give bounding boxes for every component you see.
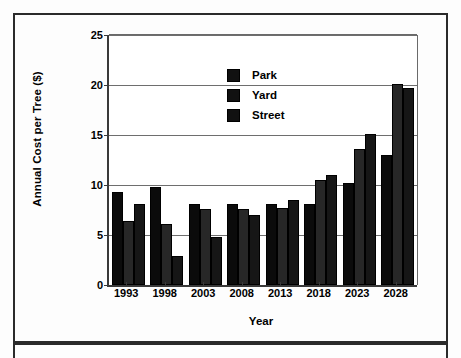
- bar-street: [288, 200, 299, 285]
- x-tick-layer: 19931998200320082013201820232028: [107, 287, 415, 313]
- x-axis-tick-label: 1993: [107, 287, 146, 313]
- bar-yard: [161, 224, 172, 285]
- bar-park: [150, 187, 161, 285]
- legend-swatch-park-icon: [227, 69, 240, 82]
- figure-frame-lower-section: [13, 343, 448, 358]
- bar-street: [211, 237, 222, 285]
- y-axis-tick-mark: [104, 285, 109, 286]
- x-axis-tick-mark: [126, 282, 127, 287]
- x-axis-tick-label: 1998: [146, 287, 185, 313]
- legend-item-yard: Yard: [227, 85, 285, 105]
- plot-area: 0510152025 Park Yard Street: [107, 35, 417, 287]
- x-axis-tick-label: 2003: [184, 287, 223, 313]
- bar-yard: [315, 180, 326, 285]
- bar-street: [249, 215, 260, 285]
- x-axis-tick-label: 2013: [261, 287, 300, 313]
- legend-item-street: Street: [227, 105, 285, 125]
- bar-park: [112, 192, 123, 285]
- legend-label-street: Street: [252, 109, 285, 121]
- bar-yard: [277, 208, 288, 285]
- bar-street: [172, 256, 183, 285]
- x-axis-tick-mark: [396, 282, 397, 287]
- chart-legend: Park Yard Street: [227, 65, 285, 125]
- bar-chart: Annual Cost per Tree ($) 0510152025 Park: [15, 15, 450, 345]
- x-axis-title: Year: [107, 315, 415, 327]
- legend-label-park: Park: [252, 69, 277, 81]
- x-axis-tick-mark: [165, 282, 166, 287]
- y-axis-tick-label: 20: [91, 79, 103, 91]
- bar-park: [266, 204, 277, 285]
- bar-yard: [123, 221, 134, 285]
- y-axis-title: Annual Cost per Tree ($): [31, 29, 43, 249]
- bar-park: [227, 204, 238, 285]
- bar-park: [381, 155, 392, 285]
- bar-group: [379, 35, 418, 285]
- legend-swatch-street-icon: [227, 109, 240, 122]
- x-axis-tick-label: 2023: [338, 287, 377, 313]
- bar-park: [304, 204, 315, 285]
- bar-group: [302, 35, 341, 285]
- bar-yard: [238, 209, 249, 285]
- bar-group: [148, 35, 187, 285]
- bar-yard: [354, 149, 365, 285]
- x-axis-tick-label: 2028: [377, 287, 416, 313]
- x-axis-tick-mark: [203, 282, 204, 287]
- x-axis-tick-mark: [242, 282, 243, 287]
- figure-frame: Annual Cost per Tree ($) 0510152025 Park: [13, 13, 448, 343]
- bar-street: [403, 88, 414, 285]
- bar-yard: [200, 209, 211, 285]
- bar-street: [134, 204, 145, 285]
- bar-street: [326, 175, 337, 285]
- x-axis-tick-label: 2008: [223, 287, 262, 313]
- x-axis-tick-mark: [319, 282, 320, 287]
- legend-swatch-yard-icon: [227, 89, 240, 102]
- x-axis-tick-label: 2018: [300, 287, 339, 313]
- bar-group: [109, 35, 148, 285]
- x-axis-tick-mark: [357, 282, 358, 287]
- plot-right-border: [417, 35, 418, 285]
- y-axis-tick-label: 15: [91, 129, 103, 141]
- bar-park: [189, 204, 200, 285]
- legend-item-park: Park: [227, 65, 285, 85]
- page-canvas: Annual Cost per Tree ($) 0510152025 Park: [0, 0, 461, 358]
- bar-street: [365, 134, 376, 285]
- bar-park: [343, 183, 354, 285]
- bar-group: [340, 35, 379, 285]
- y-axis-tick-label: 0: [97, 279, 103, 291]
- y-axis-tick-label: 5: [97, 229, 103, 241]
- x-axis-tick-mark: [280, 282, 281, 287]
- bar-yard: [392, 84, 403, 285]
- bar-group: [186, 35, 225, 285]
- y-axis-tick-label: 10: [91, 179, 103, 191]
- legend-label-yard: Yard: [252, 89, 277, 101]
- y-axis-tick-label: 25: [91, 29, 103, 41]
